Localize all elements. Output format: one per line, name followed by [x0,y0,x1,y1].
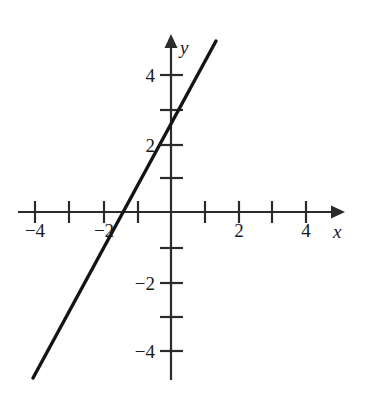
y-tick-label-neg4: −4 [135,342,155,361]
y-tick-label-neg2: −2 [135,274,155,293]
x-tick-label-pos2: 2 [234,221,244,240]
x-tick-label-neg2: −2 [94,221,114,240]
x-axis-arrowhead [331,206,345,219]
x-tick-label-neg4: −4 [25,221,45,240]
x-tick-label-pos4: 4 [301,221,311,240]
y-axis-arrowhead [165,34,178,48]
coordinate-plane-figure: −4 −2 2 4 4 2 −2 −4 x y [0,0,368,402]
y-tick-label-pos4: 4 [146,66,156,85]
y-tick-label-pos2: 2 [146,136,156,155]
y-axis-label: y [180,38,188,57]
graph-canvas [0,0,368,402]
plotted-line [33,41,216,378]
x-axis-label: x [333,222,341,241]
